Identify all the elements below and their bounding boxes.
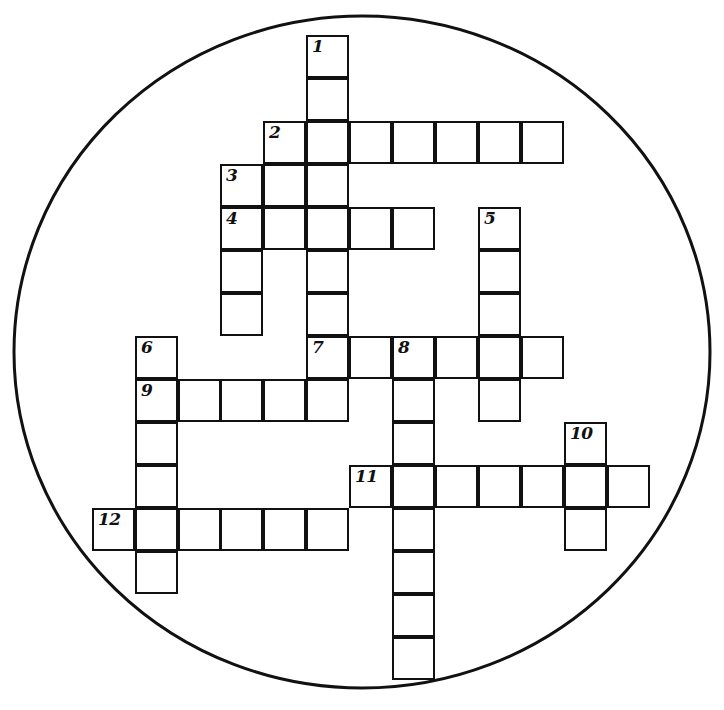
crossword-cell[interactable] (478, 121, 521, 164)
crossword-cell[interactable] (220, 250, 263, 293)
crossword-cell[interactable] (349, 207, 392, 250)
crossword-cell[interactable]: 2 (263, 121, 306, 164)
crossword-cell[interactable] (478, 336, 521, 379)
crossword-cell[interactable] (478, 250, 521, 293)
crossword-cell[interactable] (349, 121, 392, 164)
crossword-cell[interactable] (392, 508, 435, 551)
crossword-cell[interactable] (392, 551, 435, 594)
crossword-cell[interactable] (392, 637, 435, 680)
crossword-cell[interactable] (392, 379, 435, 422)
crossword-cell[interactable] (521, 465, 564, 508)
crossword-cell[interactable] (306, 508, 349, 551)
crossword-cell[interactable] (435, 465, 478, 508)
crossword-cell[interactable]: 12 (92, 508, 135, 551)
crossword-cell[interactable] (392, 594, 435, 637)
crossword-cell[interactable] (178, 379, 221, 422)
crossword-cell[interactable]: 10 (564, 422, 607, 465)
crossword-cell[interactable] (392, 207, 435, 250)
crossword-cell[interactable] (135, 422, 178, 465)
crossword-cell[interactable] (135, 508, 178, 551)
crossword-cell[interactable] (349, 336, 392, 379)
crossword-grid[interactable]: 123456789101112 (0, 0, 724, 710)
crossword-cell[interactable] (435, 121, 478, 164)
clue-number-2: 2 (269, 124, 280, 142)
crossword-cell[interactable] (564, 508, 607, 551)
crossword-cell[interactable]: 8 (392, 336, 435, 379)
clue-number-6: 6 (141, 339, 152, 357)
crossword-cell[interactable]: 5 (478, 207, 521, 250)
crossword-cell[interactable] (478, 465, 521, 508)
crossword-cell[interactable] (263, 379, 306, 422)
clue-number-7: 7 (312, 339, 323, 357)
clue-number-11: 11 (355, 468, 378, 486)
crossword-cell[interactable] (135, 551, 178, 594)
crossword-cell[interactable] (478, 293, 521, 336)
crossword-cell[interactable] (306, 164, 349, 207)
crossword-cell[interactable]: 4 (220, 207, 263, 250)
crossword-cell[interactable]: 9 (135, 379, 178, 422)
clue-number-9: 9 (141, 382, 152, 400)
crossword-cell[interactable]: 11 (349, 465, 392, 508)
crossword-cell[interactable] (263, 164, 306, 207)
clue-number-8: 8 (398, 339, 409, 357)
crossword-cell[interactable]: 3 (220, 164, 263, 207)
clue-number-12: 12 (98, 511, 121, 529)
crossword-cell[interactable]: 7 (306, 336, 349, 379)
crossword-cell[interactable]: 1 (306, 35, 349, 78)
clue-number-4: 4 (226, 210, 237, 228)
crossword-cell[interactable] (220, 379, 263, 422)
clue-number-5: 5 (484, 210, 495, 228)
crossword-cell[interactable] (220, 293, 263, 336)
crossword-cell[interactable] (392, 422, 435, 465)
crossword-cell[interactable] (478, 379, 521, 422)
crossword-cell[interactable]: 6 (135, 336, 178, 379)
crossword-cell[interactable] (306, 293, 349, 336)
crossword-cell[interactable] (263, 508, 306, 551)
crossword-cell[interactable] (521, 121, 564, 164)
crossword-cell[interactable] (306, 250, 349, 293)
crossword-cell[interactable] (521, 336, 564, 379)
clue-number-1: 1 (312, 38, 323, 56)
clue-number-10: 10 (570, 425, 593, 443)
crossword-cell[interactable] (178, 508, 221, 551)
crossword-cell[interactable] (392, 121, 435, 164)
crossword-cell[interactable] (306, 207, 349, 250)
crossword-cell[interactable] (392, 465, 435, 508)
crossword-cell[interactable] (306, 121, 349, 164)
crossword-cell[interactable] (564, 465, 607, 508)
crossword-cell[interactable] (306, 78, 349, 121)
crossword-cell[interactable] (435, 336, 478, 379)
crossword-cell[interactable] (135, 465, 178, 508)
crossword-cell[interactable] (607, 465, 650, 508)
crossword-puzzle-page: 123456789101112 (0, 0, 724, 710)
crossword-cell[interactable] (263, 207, 306, 250)
crossword-cell[interactable] (220, 508, 263, 551)
crossword-cell[interactable] (306, 379, 349, 422)
clue-number-3: 3 (226, 167, 237, 185)
